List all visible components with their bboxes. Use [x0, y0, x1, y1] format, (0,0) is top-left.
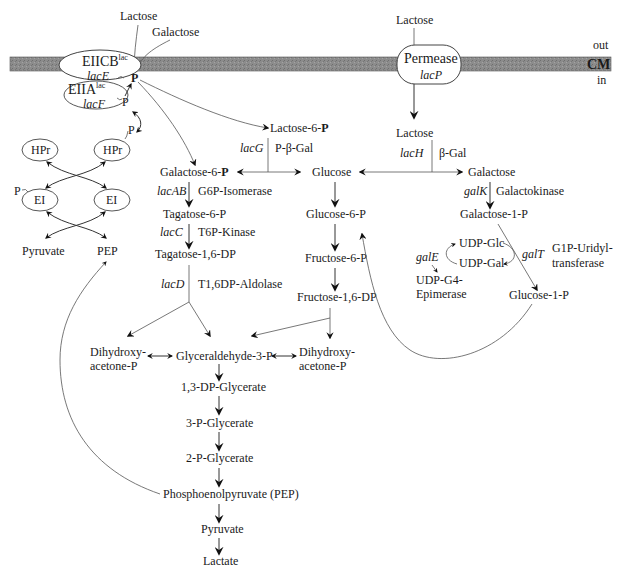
- pyruvate: Pyruvate: [201, 522, 244, 536]
- t16dp-aldolase-enzyme: T1,6DP-Aldolase: [198, 277, 282, 291]
- glucose: Glucose: [312, 165, 351, 179]
- glucose-1p: Glucose-1-P: [509, 288, 569, 302]
- membrane-out-label: out: [593, 38, 609, 52]
- arrow-to-gap-from-fru: [252, 318, 330, 336]
- dhap-right-line2: acetone-P: [299, 359, 347, 373]
- tagatose-6p: Tagatose-6-P: [163, 207, 226, 221]
- dhap-left-line1: Dihydroxy-: [90, 345, 146, 359]
- udp-g4-epimerase-line1: UDP-G4-: [416, 273, 463, 287]
- 2-p-glycerate: 2-P-Glycerate: [186, 451, 253, 465]
- pts-pyruvate: Pyruvate: [22, 244, 65, 258]
- lacF-gene: lacF: [83, 97, 106, 111]
- 13-dp-glycerate: 1,3-DP-Glycerate: [181, 380, 266, 394]
- pts-pep: PEP: [97, 244, 118, 258]
- ei-left-label: EI: [34, 193, 45, 207]
- hpr-left-label: HPr: [31, 143, 50, 157]
- glucose-6p: Glucose-6-P: [306, 207, 366, 221]
- glyceraldehyde-3p: Glyceraldehyde-3-P: [176, 349, 273, 363]
- phosphate-ei: P: [14, 184, 21, 198]
- g1p-uridyltransferase-line2: transferase: [552, 256, 604, 270]
- lactose-metabolism-diagram: out CM in Lactose Galactose EIICBlac lac…: [0, 0, 626, 571]
- lactate: Lactate: [203, 554, 238, 568]
- phosphoenolpyruvate: Phosphoenolpyruvate (PEP): [163, 487, 299, 501]
- fructose-16dp: Fructose-1,6-DP: [297, 290, 377, 304]
- galT-cycle-arrow: [503, 243, 514, 264]
- arrow-to-gap-from-tag: [189, 302, 210, 336]
- dhap-left-line2: acetone-P: [90, 359, 138, 373]
- membrane-in-label: in: [597, 73, 606, 87]
- lacH-gene: lacH: [400, 146, 425, 160]
- permease-label: Permease: [404, 51, 458, 66]
- lacAB-gene: lacAB: [157, 184, 187, 198]
- permease-lactose-in: Lactose: [396, 126, 433, 140]
- galactokinase-enzyme: Galactokinase: [496, 184, 564, 198]
- phosphate-hpr: P: [128, 123, 135, 137]
- phosphate-eiicb: P: [131, 71, 138, 85]
- p-beta-gal-enzyme: P-β-Gal: [275, 141, 314, 155]
- udp-glc: UDP-Glc: [459, 236, 504, 250]
- tagatose-16dp: Tagatose-1,6-DP: [155, 247, 236, 261]
- g6p-isomerase-enzyme: G6P-Isomerase: [198, 184, 272, 198]
- 3-p-glycerate: 3-P-Glycerate: [186, 416, 253, 430]
- galE-cycle-arrow: [446, 244, 457, 264]
- galactose-1p: Galactose-1-P: [460, 207, 528, 221]
- galactose-6p: Galactose-6-P: [160, 165, 229, 179]
- pep-feedback-arrow: [60, 262, 160, 494]
- arrow-to-dhap-left: [128, 302, 189, 336]
- galK-gene: galK: [464, 184, 488, 198]
- udp-g4-epimerase-line2: Epimerase: [416, 287, 467, 301]
- lacD-gene: lacD: [161, 277, 185, 291]
- membrane-cm-label: CM: [587, 57, 610, 72]
- pts-lactose-label: Lactose: [120, 9, 157, 23]
- dhap-right-line1: Dihydroxy-: [299, 345, 355, 359]
- udp-gal: UDP-Gal: [459, 256, 505, 270]
- pts-galactose-label: Galactose: [152, 25, 199, 39]
- hpr-right-label: HPr: [103, 143, 122, 157]
- galE-pointer: [432, 265, 437, 272]
- arrow-to-lactose-6p: [140, 80, 268, 128]
- g1p-uridyltransferase-line1: G1P-Uridyl-: [552, 241, 613, 255]
- arrow-to-galactose-6p: [138, 82, 195, 165]
- lacP-gene: lacP: [420, 68, 443, 82]
- lacC-gene: lacC: [160, 225, 184, 239]
- lacG-gene: lacG: [240, 141, 264, 155]
- ei-p-bond: [22, 189, 28, 192]
- fructose-6p: Fructose-6-P: [305, 251, 367, 265]
- galE-gene: galE: [416, 250, 439, 264]
- permease-lactose-out: Lactose: [396, 13, 433, 27]
- lactose-6p: Lactose-6-P: [270, 121, 329, 135]
- galT-gene: galT: [522, 247, 545, 261]
- t6p-kinase-enzyme: T6P-Kinase: [198, 225, 255, 239]
- phosphate-eiia: P: [122, 95, 129, 109]
- ei-right-label: EI: [106, 193, 117, 207]
- beta-gal-enzyme: β-Gal: [439, 146, 467, 160]
- leloir-galactose: Galactose: [468, 165, 515, 179]
